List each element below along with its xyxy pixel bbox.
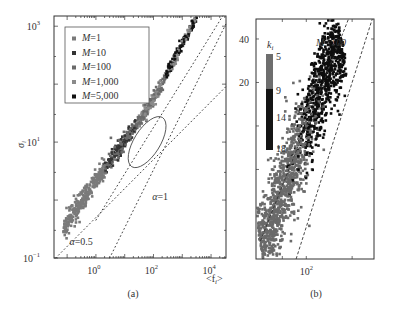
y-tick-label: 40 [239, 34, 249, 45]
scatter-point [134, 120, 137, 123]
scatter-point [314, 73, 317, 76]
scatter-point [313, 125, 316, 128]
scatter-point [308, 78, 311, 81]
scatter-point [310, 98, 313, 101]
scatter-point [306, 96, 309, 99]
scatter-point [273, 165, 276, 168]
scatter-point [65, 217, 68, 220]
scatter-point [277, 208, 280, 211]
scatter-point [328, 92, 331, 95]
scatter-point [178, 40, 181, 43]
scatter-point [127, 133, 130, 136]
scatter-point [339, 86, 342, 89]
scatter-point [332, 25, 335, 28]
scatter-point [268, 197, 271, 200]
legend-marker [72, 66, 76, 70]
scatter-point [64, 231, 67, 234]
scatter-point [297, 209, 300, 212]
scatter-point [342, 59, 345, 62]
scatter-point [306, 152, 309, 155]
scatter-point [294, 145, 297, 148]
y-tick-label: 101 [27, 135, 40, 148]
scatter-point [193, 17, 196, 20]
scatter-point [329, 96, 332, 99]
scatter-point [270, 245, 273, 248]
scatter-point [298, 80, 301, 83]
scatter-point [276, 230, 279, 233]
scatter-point [123, 131, 126, 134]
scatter-point [260, 247, 263, 250]
scatter-point [316, 102, 319, 105]
scatter-point [289, 148, 292, 151]
scatter-point [286, 162, 289, 165]
panel-a-caption: (a) [127, 288, 138, 300]
scatter-point [271, 183, 274, 186]
scatter-point [308, 134, 311, 137]
scatter-point [64, 228, 67, 231]
scatter-point [322, 77, 325, 80]
scatter-point [270, 221, 273, 224]
scatter-point [256, 207, 259, 210]
scatter-point [327, 27, 330, 30]
scatter-point [112, 164, 115, 167]
scatter-point [308, 225, 311, 228]
scatter-point [265, 212, 268, 215]
scatter-point [76, 210, 79, 213]
scatter-point [296, 181, 299, 184]
scatter-point [261, 240, 264, 243]
scatter-point [337, 61, 340, 64]
scatter-point [318, 22, 321, 25]
scatter-point [300, 160, 303, 163]
scatter-point [292, 125, 295, 128]
scatter-point [318, 78, 321, 81]
scatter-point [297, 155, 300, 158]
scatter-point [341, 48, 344, 51]
scatter-point [284, 193, 287, 196]
scatter-point [163, 79, 166, 82]
scatter-point [281, 216, 284, 219]
scatter-point [290, 240, 293, 243]
scatter-point [273, 190, 276, 193]
scatter-point [279, 246, 282, 249]
scatter-point [75, 215, 78, 218]
scatter-point [338, 113, 341, 116]
scatter-point [65, 207, 68, 210]
scatter-point [302, 178, 305, 181]
scatter-point [281, 156, 284, 159]
scatter-point [299, 112, 302, 115]
scatter-point [276, 223, 279, 226]
scatter-point [322, 72, 325, 75]
scatter-point [171, 58, 174, 61]
scatter-point [279, 239, 282, 242]
scatter-point [330, 112, 333, 115]
scatter-point [173, 55, 176, 58]
scatter-point [330, 108, 333, 111]
scatter-point [297, 168, 300, 171]
legend-label: M=1,000 [81, 76, 118, 87]
scatter-point [165, 73, 168, 76]
scatter-point [294, 111, 297, 114]
scatter-point [333, 85, 336, 88]
scatter-point [307, 143, 310, 146]
scatter-point [276, 178, 279, 181]
scatter-point [324, 66, 327, 69]
scatter-point [278, 181, 281, 184]
scatter-point [277, 170, 280, 173]
scatter-point [73, 194, 76, 197]
scatter-point [104, 168, 107, 171]
scatter-point [289, 185, 292, 188]
figure: 10010210410−1101103 M=1M=10M=100M=1,000M… [0, 0, 393, 314]
scatter-point [296, 141, 299, 144]
scatter-point [160, 87, 163, 90]
scatter-point [335, 25, 338, 28]
scatter-point [268, 247, 271, 250]
scatter-point [297, 153, 300, 156]
scatter-point [329, 101, 332, 104]
scatter-point [73, 225, 76, 228]
scatter-point [70, 224, 73, 227]
scatter-point [331, 69, 334, 72]
scatter-point [271, 216, 274, 219]
scatter-point [291, 139, 294, 142]
scatter-point [147, 107, 150, 110]
scatter-point [325, 84, 328, 87]
